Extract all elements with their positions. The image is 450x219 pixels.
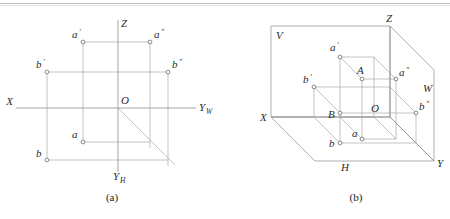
label-a-double-b: a ″ [399, 66, 410, 78]
vertex-A-b [360, 77, 364, 81]
svg-text:′: ′ [337, 41, 339, 50]
label-a-b: a [352, 127, 358, 139]
vertex-B-b [338, 111, 342, 115]
label-A-b: A [356, 64, 364, 76]
box-bottom-edge-right [374, 117, 396, 139]
vertex-a-prime-b [338, 55, 342, 59]
label-axis-x-b: X [259, 111, 268, 123]
svg-text:″: ″ [406, 66, 410, 75]
label-v-plane-b: V [276, 29, 284, 41]
label-b-b: b [329, 137, 335, 149]
label-B-b: B [328, 108, 335, 120]
label-b-prime-b: b ′ [303, 73, 312, 85]
label-axis-y-b: Y [437, 157, 445, 169]
svg-text:a: a [399, 66, 405, 78]
vertex-a-b [360, 137, 364, 141]
outer-box-bottom-left [314, 117, 340, 143]
vertex-b-double-b [414, 111, 418, 115]
svg-text:b: b [303, 73, 309, 85]
label-w-plane-b: W [423, 82, 433, 94]
w-plane-edge-top [390, 26, 434, 70]
box-edge-top-right-to-a-double [374, 57, 396, 79]
vertex-b-prime-b [312, 85, 316, 89]
label-origin-b: O [371, 102, 379, 114]
vertex-b-b [338, 141, 342, 145]
outer-box-edge-b-prime-to-B [314, 87, 340, 113]
figure-root: Z X Y W Y H O a ′ a ″ b ′ b ″ a b (a) [0, 0, 450, 219]
label-h-plane-b: H [340, 161, 350, 173]
label-a-prime-b: a ′ [330, 41, 339, 53]
vertex-a-double-b [394, 77, 398, 81]
outer-box-edge-back-to-b-double [390, 87, 416, 113]
axis-y-line-b [390, 117, 434, 161]
svg-text:b: b [419, 100, 425, 112]
box-bottom-edge-left [340, 117, 362, 139]
diagram-b: V H W Z X Y O A B a ′ a ″ a b ′ b ″ b (b… [0, 0, 450, 219]
svg-text:a: a [330, 41, 336, 53]
svg-text:′: ′ [310, 73, 312, 82]
h-plane-edge-left [271, 117, 315, 161]
svg-text:″: ″ [426, 100, 430, 109]
label-b-double-b: b ″ [419, 100, 430, 112]
caption-b: (b) [350, 191, 363, 204]
label-axis-z-b: Z [386, 12, 393, 24]
